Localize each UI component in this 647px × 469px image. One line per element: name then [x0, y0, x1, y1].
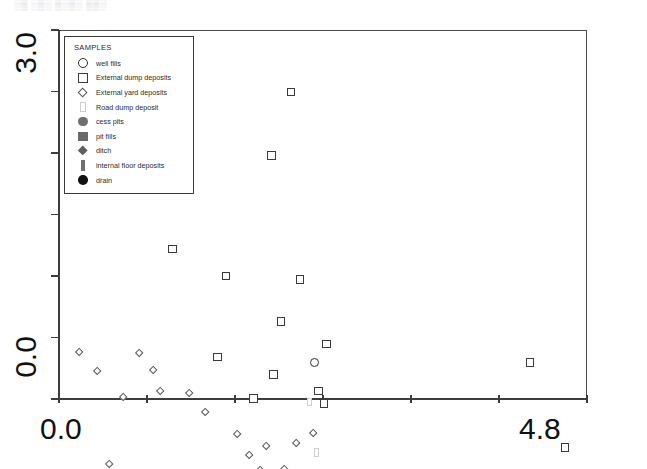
data-point-open-diamond [261, 442, 270, 451]
data-point-open-diamond [280, 465, 289, 469]
data-point-open-diamond [292, 438, 301, 447]
x-tick [410, 395, 412, 403]
data-point-open-square [287, 88, 296, 97]
data-point-open-square [320, 399, 329, 408]
y-tick [51, 152, 59, 154]
legend-item-label: well fills [96, 59, 121, 68]
y-tick [51, 275, 59, 277]
legend-box: SAMPLES well fillsExternal dump deposits… [64, 36, 194, 194]
x-tick [586, 395, 588, 403]
data-point-open-diamond [233, 430, 242, 439]
data-point-open-square [322, 340, 331, 349]
ditch-symbol-icon [74, 147, 92, 154]
legend-item-label: External yard deposits [96, 88, 167, 97]
data-point-open-diamond [245, 451, 254, 460]
drain-symbol-icon [74, 175, 92, 185]
legend-item-extdump: External dump deposits [65, 71, 193, 86]
y-tick [51, 29, 59, 31]
well-symbol-icon [74, 58, 92, 68]
data-point-open-square [296, 275, 305, 284]
legend-item-label: ditch [96, 146, 111, 155]
legend-item-ditch: ditch [65, 144, 193, 159]
data-point-open-square [222, 272, 231, 281]
data-point-open-square [314, 387, 323, 396]
data-point-open-square [526, 358, 535, 367]
legend-item-label: pit fills [96, 132, 116, 141]
legend-item-extyard: External yard deposits [65, 85, 193, 100]
y-axis-top-label: 3.0 [9, 23, 43, 83]
floor-symbol-icon [74, 160, 92, 171]
extdump-symbol-icon [74, 73, 92, 83]
legend-item-label: External dump deposits [96, 73, 171, 82]
data-point-open-square [561, 443, 570, 452]
legend-item-road: Road dump deposit [65, 100, 193, 115]
legend-item-well: well fills [65, 56, 193, 71]
data-point-open-square [168, 245, 177, 254]
x-tick [234, 395, 236, 403]
header-ghost-text: ░▒ ░▒░ ▒░▒░ ▒▒░ [14, 0, 107, 10]
data-point-open-diamond [309, 429, 318, 438]
y-tick [51, 91, 59, 93]
legend-item-label: drain [96, 176, 112, 185]
legend-item-pit: pit fills [65, 129, 193, 144]
legend-item-drain: drain [65, 173, 193, 188]
extyard-symbol-icon [74, 89, 92, 96]
legend-item-label: Road dump deposit [96, 103, 158, 112]
legend-item-label: internal floor deposits [96, 161, 164, 170]
data-point-open-square [277, 317, 286, 326]
data-point-open-square [267, 151, 276, 160]
data-point-open-circle [310, 358, 319, 367]
data-point-open-square [269, 370, 278, 379]
legend-item-cess: cess pits [65, 114, 193, 129]
legend-item-floor: internal floor deposits [65, 158, 193, 173]
y-axis-bottom-label: 0.0 [9, 327, 43, 387]
x-tick [58, 395, 60, 403]
data-point-open-square [213, 353, 222, 362]
data-point-open-diamond [105, 459, 114, 468]
pit-symbol-icon [74, 132, 92, 141]
x-tick [498, 395, 500, 403]
legend-title: SAMPLES [74, 43, 193, 52]
data-point-light-open-rect [307, 398, 312, 407]
y-tick [51, 214, 59, 216]
y-tick [51, 337, 59, 339]
x-axis-right-label: 4.8 [519, 412, 561, 446]
data-point-light-open-rect [314, 448, 319, 457]
legend-rows: well fillsExternal dump depositsExternal… [65, 56, 193, 187]
cess-symbol-icon [74, 117, 92, 126]
x-axis-left-label: 0.0 [40, 412, 82, 446]
legend-item-label: cess pits [96, 117, 124, 126]
data-point-open-diamond [201, 407, 210, 416]
road-symbol-icon [74, 102, 92, 112]
scatter-plot-figure: ░▒ ░▒░ ▒░▒░ ▒▒░ 3.0 0.0 0.0 4.8 SAMPLES … [0, 0, 647, 469]
data-point-open-square [249, 394, 258, 403]
x-tick [146, 395, 148, 403]
